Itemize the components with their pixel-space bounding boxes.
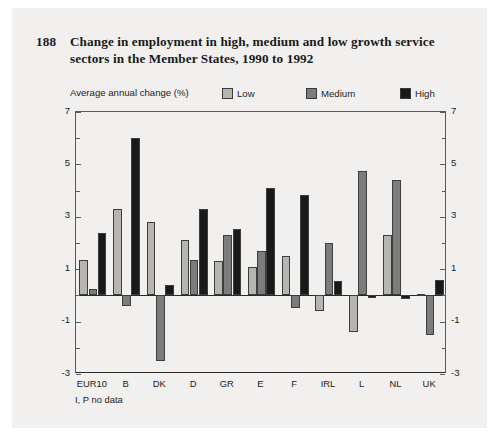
y-tick-right	[440, 112, 445, 113]
x-axis-label-dk: DK	[153, 378, 166, 389]
bar-uk-low	[417, 294, 426, 296]
axis-caption: Average annual change (%)	[70, 87, 189, 98]
y-tick-label-right: 1	[451, 262, 473, 273]
legend-swatch-medium	[306, 88, 317, 99]
x-axis-label-l: L	[359, 378, 364, 389]
chart-footnote: I, P no data	[75, 394, 123, 405]
legend-item-low: Low	[222, 87, 255, 100]
bar-nl-medium	[392, 180, 401, 295]
x-axis-label-nl: NL	[389, 378, 401, 389]
x-axis-label-f: F	[291, 378, 297, 389]
y-tick-right	[442, 243, 446, 244]
bar-uk-medium	[426, 295, 435, 334]
y-tick-left	[76, 348, 80, 349]
bar-e-high	[266, 188, 275, 295]
bar-nl-low	[383, 235, 392, 295]
y-tick-label-left: -3	[48, 367, 70, 378]
y-tick-label-right: -3	[451, 367, 473, 378]
y-tick-label-right: 3	[451, 209, 473, 220]
legend-swatch-low	[222, 88, 233, 99]
bar-dk-high	[165, 285, 174, 295]
y-tick-label-left: 5	[48, 157, 70, 168]
x-axis-label-b: B	[122, 378, 128, 389]
bar-eur10-medium	[89, 289, 98, 296]
y-tick-left	[76, 112, 81, 113]
bar-d-medium	[190, 260, 199, 295]
x-axis-label-irl: IRL	[321, 378, 336, 389]
y-tick-right	[440, 322, 445, 323]
figure-panel: 188 Change in employment in high, medium…	[12, 8, 487, 428]
bar-irl-low	[315, 295, 324, 311]
y-tick-label-left: 3	[48, 209, 70, 220]
y-tick-left	[76, 217, 81, 218]
y-tick-right	[442, 191, 446, 192]
chart-plot-inner	[76, 112, 445, 372]
bar-gr-high	[233, 229, 242, 296]
bar-gr-medium	[223, 235, 232, 295]
bar-b-high	[131, 138, 140, 295]
x-axis-label-uk: UK	[423, 378, 436, 389]
bar-d-high	[199, 209, 208, 295]
bar-f-low	[282, 256, 291, 295]
bar-f-medium	[291, 295, 300, 308]
y-tick-left	[76, 295, 80, 296]
y-tick-right	[440, 217, 445, 218]
x-axis-label-gr: GR	[220, 378, 234, 389]
bar-eur10-high	[98, 233, 107, 296]
y-tick-label-left: 1	[48, 262, 70, 273]
y-tick-right	[440, 374, 445, 375]
bar-e-low	[248, 267, 257, 296]
y-tick-left	[76, 191, 80, 192]
chart-plot-area	[75, 111, 446, 373]
legend-label-low: Low	[237, 88, 255, 99]
y-tick-right	[442, 295, 446, 296]
bar-irl-medium	[325, 243, 334, 295]
x-axis-label-eur10: EUR10	[77, 378, 107, 389]
bar-dk-low	[147, 222, 156, 295]
y-tick-left	[76, 138, 80, 139]
y-tick-label-left: 7	[48, 105, 70, 116]
bar-e-medium	[257, 251, 266, 296]
bar-b-medium	[122, 295, 131, 305]
legend-label-high: High	[415, 88, 435, 99]
y-tick-right	[440, 164, 445, 165]
x-axis-label-d: D	[190, 378, 197, 389]
bar-uk-high	[435, 280, 444, 296]
bar-nl-high	[401, 295, 410, 299]
y-tick-label-right: 5	[451, 157, 473, 168]
legend-item-medium: Medium	[306, 87, 355, 100]
bar-l-medium	[358, 171, 367, 295]
y-tick-label-right: -1	[451, 314, 473, 325]
y-tick-label-left: -1	[48, 314, 70, 325]
y-tick-right	[442, 138, 446, 139]
x-axis-label-e: E	[257, 378, 263, 389]
legend-swatch-high	[400, 88, 411, 99]
y-tick-left	[76, 374, 81, 375]
bar-dk-medium	[156, 295, 165, 361]
bar-l-high	[368, 295, 377, 298]
legend-label-medium: Medium	[321, 88, 355, 99]
bar-b-low	[113, 209, 122, 295]
page-title: Change in employment in high, medium and…	[70, 33, 466, 67]
figure-number: 188	[36, 33, 70, 50]
y-tick-right	[440, 269, 445, 270]
zero-baseline	[76, 295, 445, 296]
bar-eur10-low	[79, 260, 88, 295]
bar-f-high	[300, 195, 309, 296]
bar-d-low	[181, 240, 190, 295]
figure-title-block: 188 Change in employment in high, medium…	[36, 33, 466, 67]
y-tick-left	[76, 164, 81, 165]
bar-l-low	[349, 295, 358, 332]
y-tick-left	[76, 322, 81, 323]
bar-gr-low	[214, 261, 223, 295]
bar-irl-high	[334, 281, 343, 295]
y-tick-left	[76, 243, 80, 244]
legend-item-high: High	[400, 87, 435, 100]
y-tick-right	[442, 348, 446, 349]
chart-legend: Average annual change (%) Low Medium Hig…	[70, 87, 466, 101]
y-tick-label-right: 7	[451, 105, 473, 116]
